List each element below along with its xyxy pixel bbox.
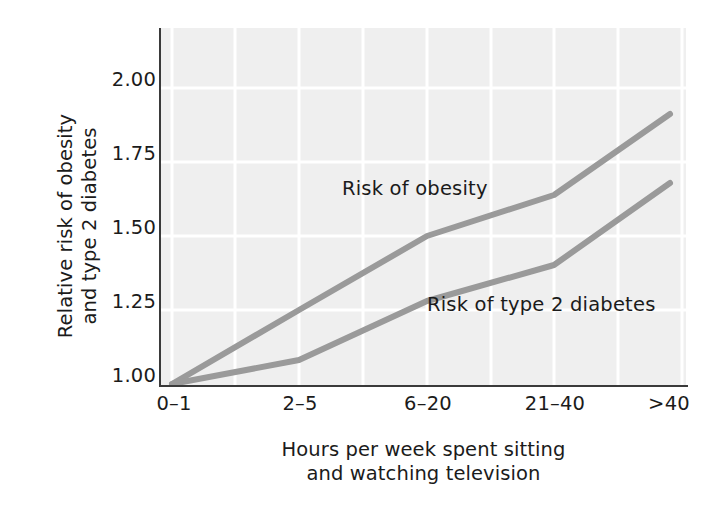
x-axis-title-line-2: and watching television: [161, 462, 686, 486]
x-tick-label-6-20: 6–20: [404, 394, 452, 414]
x-axis-title-line-1: Hours per week spent sitting: [161, 438, 686, 462]
x-axis-line: [159, 385, 688, 387]
y-axis-line: [159, 28, 161, 386]
x-tick-label-21-40: 21–40: [525, 394, 585, 414]
chart-figure: Relative risk of obesity and type 2 diab…: [0, 0, 719, 509]
y-tick-label-1-75: 1.75: [82, 144, 156, 164]
vertical-gridlines: [172, 28, 682, 385]
y-axis-tick-labels: 2.00 1.75 1.50 1.25 1.00: [82, 0, 156, 509]
y-tick-label-1-25: 1.25: [82, 292, 156, 312]
series-line-risk-of-obesity: [172, 114, 670, 384]
x-tick-label-0-1: 0–1: [156, 394, 191, 414]
series-label-risk-of-obesity: Risk of obesity: [342, 179, 488, 199]
y-tick-label-1-00: 1.00: [82, 366, 156, 386]
x-axis-title: Hours per week spent sitting and watchin…: [161, 438, 686, 486]
y-tick-label-2-00: 2.00: [82, 70, 156, 90]
x-tick-label-2-5: 2–5: [282, 394, 317, 414]
plot-canvas: [161, 28, 686, 385]
y-tick-label-1-50: 1.50: [82, 218, 156, 238]
series-label-risk-of-type-2-diabetes: Risk of type 2 diabetes: [427, 295, 656, 315]
y-axis-title-line-1: Relative risk of obesity: [54, 114, 78, 338]
x-axis-tick-labels: 0–1 2–5 6–20 21–40 >40: [0, 394, 719, 420]
plot-area: [161, 28, 686, 385]
series-line-risk-of-type-2-diabetes: [172, 183, 670, 384]
x-tick-label-over-40: >40: [648, 394, 690, 414]
